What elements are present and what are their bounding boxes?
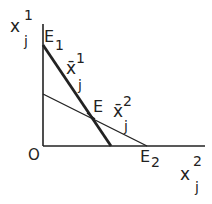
- svg-text:1: 1: [24, 7, 33, 23]
- line-x2-label: x̄ 2 j: [113, 93, 132, 134]
- y-axis-label: x 1 j: [10, 7, 33, 49]
- svg-text:2: 2: [151, 154, 160, 170]
- point-e2-label: E 2: [140, 147, 160, 170]
- origin-label: O: [28, 146, 40, 164]
- svg-text:j: j: [23, 33, 28, 49]
- point-e-label: E: [93, 97, 103, 116]
- svg-text:1: 1: [55, 37, 64, 53]
- svg-text:x: x: [180, 164, 190, 184]
- line-x1-label: x̄ 1 j: [66, 50, 85, 93]
- svg-text:E: E: [140, 147, 150, 166]
- svg-text:x̄: x̄: [66, 58, 76, 78]
- svg-text:2: 2: [123, 93, 132, 109]
- svg-text:E: E: [44, 27, 54, 46]
- svg-text:x̄: x̄: [113, 101, 123, 121]
- diagram-canvas: x 1 j E 1 x̄ 1 j E x̄ 2 j O E 2 x 2 j: [0, 0, 212, 204]
- x-axis-label: x 2 j: [180, 153, 202, 195]
- svg-text:j: j: [194, 179, 199, 195]
- svg-text:2: 2: [193, 153, 202, 169]
- svg-text:x: x: [10, 16, 20, 36]
- svg-text:j: j: [77, 77, 82, 93]
- svg-text:j: j: [123, 118, 128, 134]
- svg-text:1: 1: [76, 50, 85, 66]
